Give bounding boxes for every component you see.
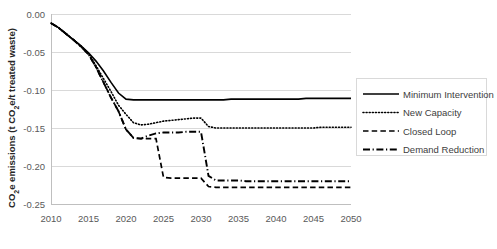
x-tick-label: 2010 [40,213,61,224]
chart-container: 0.00-0.05-0.10-0.15-0.20-0.25 2010201520… [0,0,497,249]
chart-legend: Minimum InterventionNew CapacityClosed L… [357,79,494,156]
y-tick-label: 0.00 [27,9,46,20]
y-tick-label: -0.25 [23,199,45,210]
legend-label-new-capacity: New Capacity [403,107,462,118]
y-tick-label: -0.15 [23,123,45,134]
legend-label-closed-loop: Closed Loop [403,126,456,137]
y-tick-label: -0.10 [23,85,45,96]
x-tick-labels-group: 201020152020202520302035204020452050 [40,213,361,224]
x-tick-label: 2040 [265,213,286,224]
x-tick-label: 2025 [153,213,174,224]
x-tick-label: 2015 [78,213,99,224]
legend-label-minimum-intervention: Minimum Intervention [403,89,494,100]
y-tick-label: -0.20 [23,161,45,172]
x-tick-label: 2020 [115,213,136,224]
x-tick-label: 2045 [303,213,324,224]
chart-svg: 0.00-0.05-0.10-0.15-0.20-0.25 2010201520… [0,0,497,249]
x-tick-label: 2035 [228,213,249,224]
x-tick-label: 2050 [340,213,361,224]
y-tick-label: -0.05 [23,47,45,58]
x-tick-label: 2030 [190,213,211,224]
legend-label-demand-reduction: Demand Reduction [403,144,484,155]
